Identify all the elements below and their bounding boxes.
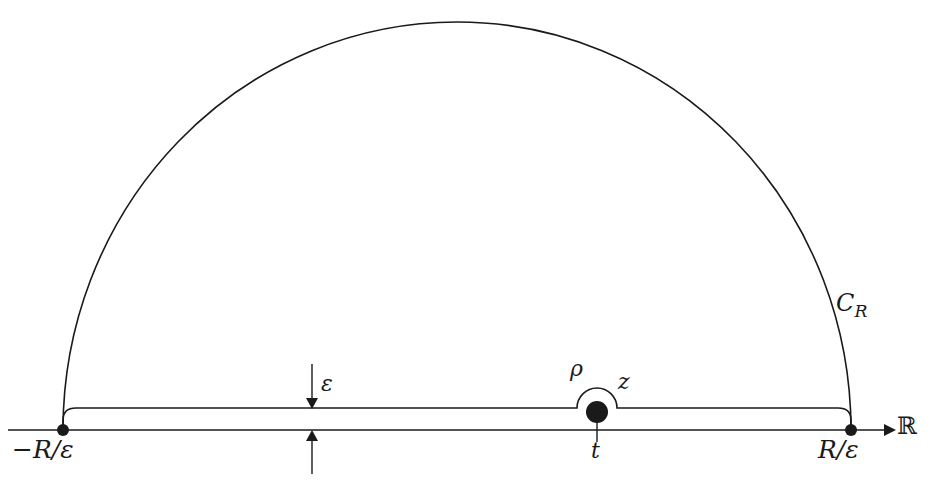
label-right-endpoint: R/ε [818, 437, 859, 462]
pole-dot [586, 401, 608, 423]
label-real-axis: ℝ [897, 414, 917, 438]
label-epsilon: ε [321, 373, 333, 395]
contour-diagram: −R/ε R/ε CR ε ρ z t ℝ [0, 0, 951, 494]
label-arc-CR: CR [836, 291, 867, 320]
label-z: z [618, 371, 630, 393]
epsilon-lower-arrowhead [306, 430, 318, 441]
label-arc-subscript: R [854, 301, 867, 321]
label-left-endpoint: −R/ε [12, 437, 74, 462]
indented-contour-path [63, 388, 851, 430]
label-pole-t: t [591, 440, 600, 462]
label-arc-base: C [836, 289, 854, 317]
contour-diagram-canvas [0, 0, 951, 494]
real-axis-arrowhead [884, 424, 896, 436]
large-semicircular-arc [63, 22, 851, 430]
label-rho: ρ [570, 358, 583, 380]
